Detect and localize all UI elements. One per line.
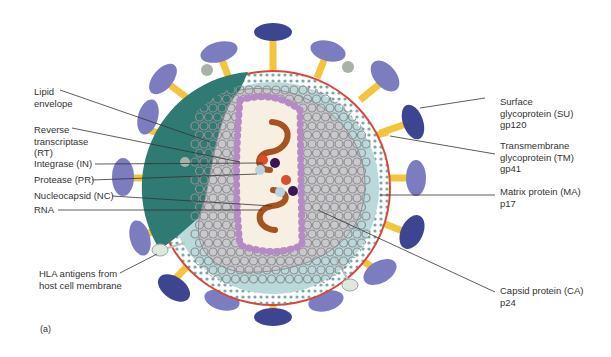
protease	[255, 165, 265, 175]
label-matrix-protein: Matrix protein (MA) p17	[500, 186, 581, 209]
label-nucleocapsid: Nucleocapsid (NC)	[34, 190, 114, 202]
label-capsid-protein: Capsid protein (CA) p24	[500, 285, 583, 308]
label-lipid-envelope: Lipid envelope	[34, 86, 73, 109]
label-protease: Protease (PR)	[34, 174, 94, 186]
label-hla-antigens: HLA antigens from host cell membrane	[39, 268, 122, 291]
label-rna: RNA	[34, 204, 54, 216]
label-integrase: Integrase (IN)	[34, 158, 92, 170]
integrase	[270, 158, 280, 168]
reverse-transcriptase	[258, 155, 268, 165]
label-surface-glycoprotein: Surface glycoprotein (SU) gp120	[500, 96, 573, 131]
panel-label: (a)	[40, 324, 51, 336]
label-transmembrane-glycoprotein: Transmembrane glycoprotein (TM) gp41	[500, 140, 574, 175]
label-reverse-transcriptase: Reverse transcriptase (RT)	[34, 124, 88, 159]
